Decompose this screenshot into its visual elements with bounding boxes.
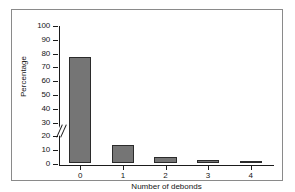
- y-tick-mark: [53, 26, 58, 27]
- y-tick-mark: [53, 136, 58, 137]
- y-axis-line: [59, 26, 60, 166]
- bar: [112, 145, 134, 163]
- x-tick-label: 0: [65, 170, 95, 181]
- figure-frame: 0102030405060708090100 01234 Number of d…: [11, 9, 283, 181]
- bar: [69, 57, 91, 163]
- x-tick-label: 4: [236, 170, 266, 181]
- y-tick-mark: [53, 67, 58, 68]
- y-tick-mark: [53, 81, 58, 82]
- y-tick-label: 10: [12, 145, 50, 155]
- y-tick-mark: [53, 54, 58, 55]
- y-axis-title: Percentage: [19, 42, 28, 112]
- y-tick-label: 20: [12, 131, 50, 141]
- bar: [154, 157, 176, 163]
- x-tick-label: 3: [193, 170, 223, 181]
- y-tick-mark: [53, 123, 58, 124]
- y-tick-mark: [53, 150, 58, 151]
- y-tick-mark: [53, 95, 58, 96]
- x-tick-label: 2: [151, 170, 181, 181]
- y-tick-label: 100: [12, 21, 50, 31]
- y-tick-mark: [53, 164, 58, 165]
- y-tick-mark: [53, 109, 58, 110]
- x-tick-label: 1: [108, 170, 138, 181]
- bar: [197, 160, 219, 163]
- x-axis-line: [59, 165, 274, 166]
- y-tick-label: 0: [12, 159, 50, 169]
- x-axis-title: Number of debonds: [59, 182, 274, 191]
- y-tick-mark: [53, 40, 58, 41]
- y-tick-label: 30: [12, 118, 50, 128]
- bar: [240, 161, 262, 163]
